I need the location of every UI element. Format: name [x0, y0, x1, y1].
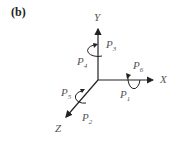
rotation-arrow-y-icon: [88, 43, 102, 56]
rotation-label-p2: P2: [82, 112, 92, 126]
y-axis-label: Y: [94, 12, 100, 23]
rotation-label-p4: P4: [77, 56, 87, 70]
rotation-label-p1: P1: [120, 89, 130, 103]
rotation-label-p6: P6: [133, 60, 143, 74]
coordinate-diagram: (b) Y X Z P3 P4 P6 P: [0, 0, 179, 147]
rotation-label-p5: P5: [61, 87, 71, 101]
rotation-label-p3: P3: [106, 39, 116, 53]
rotation-arrow-x-icon: [126, 73, 140, 89]
z-axis-label: Z: [55, 123, 61, 134]
x-axis-label: X: [160, 74, 167, 85]
